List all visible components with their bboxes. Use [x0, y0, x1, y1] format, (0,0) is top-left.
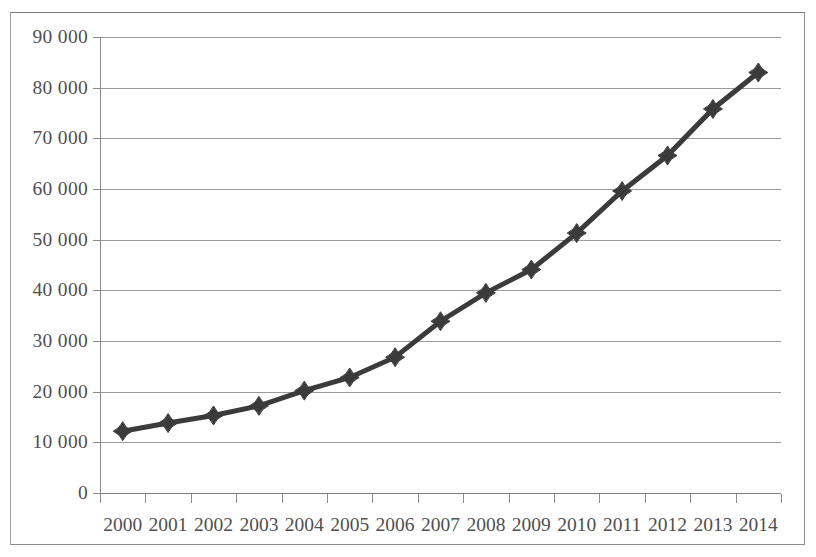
chart-figure: 010 00020 00030 00040 00050 00060 00070 …	[0, 0, 816, 557]
data-point-marker	[249, 396, 268, 415]
data-point-marker	[159, 414, 178, 433]
data-point-marker	[204, 406, 223, 425]
series-markers	[113, 63, 768, 441]
series-plot	[0, 0, 816, 557]
data-point-marker	[295, 381, 314, 400]
data-point-marker	[113, 422, 132, 441]
data-point-marker	[340, 368, 359, 387]
series-line	[123, 72, 759, 431]
